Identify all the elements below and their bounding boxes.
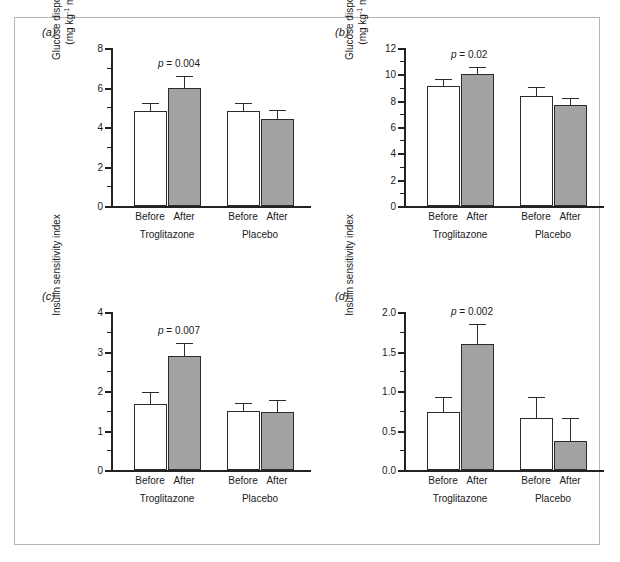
y-axis-title-c: Insulin sensitivity index (45, 181, 67, 349)
y-tick-label: 4 (97, 122, 103, 133)
plot-area-b: 024681012 p = 0.02 BeforeAfterBeforeAfte… (404, 48, 604, 223)
bar-placebo-before (520, 96, 553, 206)
y-tick-minor (400, 140, 404, 141)
error-bar (443, 398, 444, 411)
bar-placebo-before (227, 111, 260, 206)
y-tick-major (105, 352, 111, 354)
y-tick-major (398, 74, 404, 76)
error-bar-cap (142, 392, 159, 393)
y-tick-label: 8 (97, 43, 103, 54)
y-tick-major (398, 391, 404, 393)
y-tick-major (105, 431, 111, 433)
error-bar-cap (235, 103, 252, 104)
error-bar (184, 77, 185, 88)
x-axis-labels-b: BeforeAfterBeforeAfterTroglitazonePlaceb… (406, 211, 604, 251)
bar-troglitazone-after (461, 344, 494, 470)
y-axis-title-b: Glucose disposal rate (mg kg-1 min-1) (334, 0, 378, 96)
error-bar (243, 104, 244, 111)
x-tick-label: Before (135, 211, 164, 222)
y-tick-major (105, 391, 111, 393)
x-tick-label: After (266, 211, 287, 222)
bar-troglitazone-before (427, 86, 460, 206)
x-tick-label: Before (521, 475, 550, 486)
y-tick-minor (107, 411, 111, 412)
error-bar (184, 344, 185, 356)
bars-container-b: p = 0.02 (406, 48, 604, 206)
bars-container-d: p = 0.002 (406, 312, 604, 470)
y-tick-label: 4 (390, 148, 396, 159)
error-bar-cap (269, 110, 286, 111)
y-tick-label: 8 (390, 95, 396, 106)
y-tick-minor (107, 332, 111, 333)
y-tick-major (105, 167, 111, 169)
x-tick-label: Before (428, 211, 457, 222)
y-tick-label: 2 (390, 174, 396, 185)
y-tick-minor (107, 186, 111, 187)
bar-troglitazone-before (134, 111, 167, 206)
bar-troglitazone-after (168, 88, 201, 207)
y-tick-major (398, 48, 404, 50)
error-bar-cap (269, 400, 286, 401)
error-bar-cap (469, 324, 486, 325)
x-group-label: Troglitazone (140, 493, 195, 504)
bar-placebo-before (227, 411, 260, 470)
y-tick-label: 1.0 (382, 386, 396, 397)
y-tick-label: 3 (97, 346, 103, 357)
error-bar-cap (142, 103, 159, 104)
x-tick-label: After (266, 475, 287, 486)
y-tick-major (398, 312, 404, 314)
y-tick-label: 2.0 (382, 307, 396, 318)
figure-frame: (a) Glucose disposal rate (mg kg-1 min-1… (14, 17, 600, 545)
x-group-label: Placebo (535, 229, 571, 240)
x-tick-label: After (559, 475, 580, 486)
y-tick-label: 1.5 (382, 346, 396, 357)
x-axis-line (404, 206, 604, 208)
y-axis-title-a: Glucose disposal rate (mg kg-1 min-1) (41, 0, 85, 96)
y-tick-major (105, 206, 111, 208)
y-tick-label: 2 (97, 161, 103, 172)
bar-troglitazone-after (168, 356, 201, 470)
y-tick-label: 1 (97, 425, 103, 436)
p-value-annotation: p = 0.02 (451, 49, 487, 60)
error-bar-cap (176, 343, 193, 344)
y-tick-major (105, 48, 111, 50)
error-bar (277, 401, 278, 412)
p-value-annotation: p = 0.007 (158, 325, 200, 336)
y-tick-major (398, 127, 404, 129)
y-tick-major (398, 431, 404, 433)
error-bar (150, 393, 151, 405)
y-tick-minor (107, 371, 111, 372)
error-bar (536, 88, 537, 97)
y-tick-major (105, 127, 111, 129)
x-tick-label: Before (135, 475, 164, 486)
x-group-label: Troglitazone (433, 229, 488, 240)
error-bar-cap (435, 397, 452, 398)
y-tick-label: 6 (390, 122, 396, 133)
y-tick-major (398, 470, 404, 472)
y-tick-label: 4 (97, 307, 103, 318)
bars-container-a: p = 0.004 (113, 48, 311, 206)
x-axis-labels-d: BeforeAfterBeforeAfterTroglitazonePlaceb… (406, 475, 604, 515)
y-tick-label: 0.5 (382, 425, 396, 436)
y-tick-minor (400, 450, 404, 451)
error-bar (477, 325, 478, 345)
y-tick-minor (400, 88, 404, 89)
y-tick-minor (107, 107, 111, 108)
y-tick-major (105, 312, 111, 314)
y-tick-minor (400, 61, 404, 62)
x-group-label: Troglitazone (140, 229, 195, 240)
bars-container-c: p = 0.007 (113, 312, 311, 470)
y-tick-minor (107, 68, 111, 69)
error-bar-cap (528, 87, 545, 88)
error-bar-cap (469, 67, 486, 68)
error-bar-cap (562, 98, 579, 99)
p-value-annotation: p = 0.002 (451, 306, 493, 317)
y-tick-label: 0 (97, 201, 103, 212)
x-tick-label: After (466, 475, 487, 486)
y-tick-minor (107, 147, 111, 148)
x-axis-labels-a: BeforeAfterBeforeAfterTroglitazonePlaceb… (113, 211, 311, 251)
y-tick-minor (400, 193, 404, 194)
y-tick-minor (400, 167, 404, 168)
y-tick-label: 6 (97, 82, 103, 93)
y-tick-minor (400, 371, 404, 372)
